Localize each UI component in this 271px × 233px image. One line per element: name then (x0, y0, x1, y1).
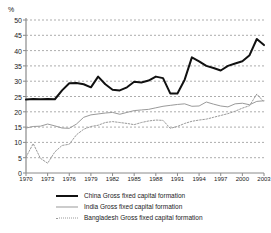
x-axis-tick-label: 1994 (192, 176, 205, 182)
legend-label: Bangladesh Gross fixed capital formation (84, 214, 203, 221)
x-axis-tick-label: 1973 (41, 176, 54, 182)
chart-legend: China Gross fixed capital formationIndia… (55, 190, 255, 223)
x-axis-tick-label: 1982 (106, 176, 119, 182)
series-line-2 (26, 94, 264, 163)
x-axis-tick-label: 1976 (63, 176, 76, 182)
x-axis-tick-labels: 1970197319761979198219851988199119941997… (0, 176, 271, 188)
legend-label: India Gross fixed capital formation (84, 203, 182, 210)
x-axis-tick-label: 1988 (149, 176, 162, 182)
x-axis-tick-label: 1970 (19, 176, 32, 182)
x-axis-tick-label: 2003 (257, 176, 270, 182)
legend-item[interactable]: Bangladesh Gross fixed capital formation (55, 212, 255, 223)
legend-label: China Gross fixed capital formation (84, 192, 185, 199)
series-line-1 (26, 101, 264, 129)
x-axis-tick-label: 1991 (171, 176, 184, 182)
legend-swatch-icon (55, 191, 79, 201)
x-axis-tick-label: 1979 (84, 176, 97, 182)
legend-swatch-icon (55, 213, 79, 223)
x-axis-tick-label: 1985 (127, 176, 140, 182)
series-line-0 (26, 39, 264, 100)
legend-item[interactable]: China Gross fixed capital formation (55, 190, 255, 201)
x-axis-tick-label: 2000 (236, 176, 249, 182)
x-axis-tick-label: 1997 (214, 176, 227, 182)
legend-swatch-icon (55, 202, 79, 212)
legend-item[interactable]: India Gross fixed capital formation (55, 201, 255, 212)
line-chart: % 05101520253035404550 19701973197619791… (0, 0, 271, 233)
